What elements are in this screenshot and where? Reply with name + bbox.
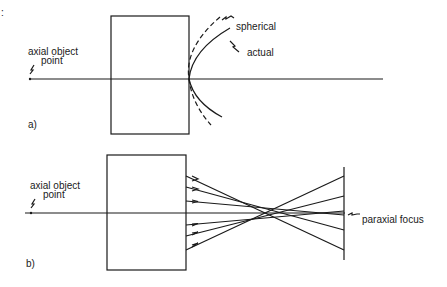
panel-a-tag: a) [28, 119, 37, 130]
actual-wavefront [189, 28, 230, 117]
label-spherical: spherical [236, 21, 276, 32]
spherical-wavefront [188, 17, 220, 125]
aberration-diagram: : axial object point spherical actual a)… [0, 0, 447, 287]
pointer-spherical [222, 16, 234, 20]
object-point-b [30, 212, 32, 214]
pointer-object-b [31, 199, 35, 208]
lens-system-a [111, 16, 189, 134]
object-label-b-line2: point [43, 189, 65, 200]
panel-b-tag: b) [26, 258, 35, 269]
pointer-object-a [30, 65, 34, 74]
pointer-actual [230, 41, 239, 52]
object-label-a-line2: point [41, 55, 63, 66]
panel-b: axial object point paraxial focus b) [25, 155, 424, 270]
top-mark: : [1, 7, 4, 18]
label-actual: actual [247, 47, 274, 58]
object-point-a [29, 78, 31, 80]
pointer-focus [348, 213, 360, 215]
panel-a: axial object point spherical actual a) [28, 16, 383, 134]
label-paraxial-focus: paraxial focus [362, 214, 424, 225]
